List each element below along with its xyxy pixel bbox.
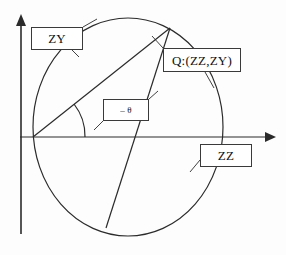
leader-line-theta-upper <box>149 91 158 99</box>
leader-line-q-lower <box>205 72 214 88</box>
chord-segment <box>106 28 170 228</box>
angle-arc <box>74 104 85 137</box>
leader-line-zy-lower <box>72 50 79 57</box>
x-axis-arrow-icon <box>265 132 276 142</box>
label-zz: ZZ <box>200 144 252 167</box>
leader-line-theta <box>94 121 103 130</box>
label-point-q: Q:(ZZ,ZY) <box>163 48 241 72</box>
leader-line-zy <box>83 19 97 27</box>
leader-line-zz <box>190 160 200 172</box>
diagram-canvas: ZY Q:(ZZ,ZY) – θ ZZ <box>0 0 286 255</box>
label-zy: ZY <box>31 27 83 50</box>
y-axis-arrow-icon <box>16 14 26 26</box>
label-angle-theta: – θ <box>103 99 149 121</box>
